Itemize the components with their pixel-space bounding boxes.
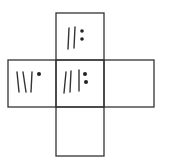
net-outline [8,13,154,156]
line-marks-icon [68,27,75,49]
cube-net-diagram [0,0,169,165]
line-marks-icon [64,70,79,93]
cell-center [56,60,104,107]
cell-bottom [56,107,104,156]
dot-single-icon [37,72,41,76]
dot-pair-icon [80,29,84,41]
cell-top [56,13,104,60]
line-marks-icon [17,72,32,92]
top-cell-symbol [68,27,84,49]
dot-pair-icon [83,72,88,84]
left-cell-symbol [17,72,41,92]
center-cell-symbol [64,70,88,93]
cell-right [104,60,154,107]
